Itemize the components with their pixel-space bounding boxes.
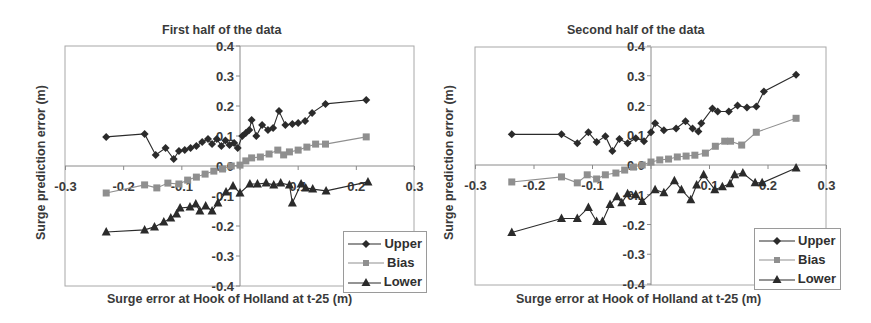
y-tick-label: -0.4	[623, 277, 646, 292]
diamond-marker	[697, 119, 705, 127]
y-axis-label: Surge prediction error (m)	[442, 90, 456, 240]
y-tick-label: 0.2	[627, 99, 645, 114]
square-marker	[508, 178, 515, 185]
legend-item-bias: Bias	[759, 250, 836, 269]
chart-title: Second half of the data	[567, 23, 705, 37]
legend-item-upper: Upper	[759, 231, 836, 250]
square-marker	[712, 143, 719, 150]
triangle-marker	[670, 176, 679, 185]
triangle-marker	[792, 163, 801, 172]
triangle-marker-icon	[759, 274, 795, 284]
square-marker	[648, 159, 655, 166]
x-tick-label: -0.3	[464, 178, 486, 193]
x-tick-label: 0.3	[817, 178, 835, 193]
chart-panel-second-half: 0.40.30.20.10.0-0.1-0.2-0.3-0.4-0.3-0.2-…	[0, 0, 871, 323]
diamond-marker	[760, 88, 768, 96]
diamond-marker	[601, 132, 609, 140]
square-marker	[593, 175, 600, 182]
square-marker	[574, 179, 581, 186]
legend-item-lower: Lower	[759, 269, 836, 288]
x-tick-label: -0.1	[581, 178, 603, 193]
x-axis-label: Surge error at Hook of Holland at t-25 (…	[516, 292, 761, 306]
square-marker	[793, 115, 800, 122]
square-marker	[683, 153, 690, 160]
diamond-marker	[734, 102, 742, 110]
legend-label: Upper	[798, 233, 836, 248]
square-marker	[630, 164, 637, 171]
square-marker	[639, 162, 646, 169]
diamond-marker	[608, 147, 616, 155]
triangle-marker	[598, 217, 607, 226]
y-tick-label: -0.2	[623, 218, 645, 233]
diamond-marker	[508, 130, 516, 138]
triangle-marker	[557, 214, 566, 223]
square-marker	[584, 171, 591, 178]
diamond-marker	[752, 102, 760, 110]
diamond-marker	[743, 104, 751, 112]
series-line-bias	[512, 118, 796, 183]
y-tick-label: 0.3	[627, 69, 645, 84]
triangle-marker	[738, 168, 747, 177]
triangle-marker	[613, 192, 622, 201]
square-marker	[753, 129, 760, 136]
square-marker	[738, 142, 745, 149]
square-marker	[558, 173, 565, 180]
square-marker	[612, 170, 619, 177]
diamond-marker	[792, 71, 800, 79]
legend-label: Lower	[798, 271, 836, 286]
plot-svg: 0.40.30.20.10.0-0.1-0.2-0.3-0.4-0.3-0.2-…	[0, 0, 871, 323]
diamond-marker	[557, 130, 565, 138]
triangle-marker	[584, 203, 593, 212]
square-marker	[665, 156, 672, 163]
square-marker-icon	[759, 255, 795, 265]
square-marker	[656, 156, 663, 163]
y-tick-label: 0.4	[627, 39, 646, 54]
square-marker	[674, 153, 681, 160]
diamond-marker	[615, 135, 623, 143]
square-marker	[691, 152, 698, 159]
diamond-marker-icon	[759, 236, 795, 246]
square-marker	[727, 138, 734, 145]
square-marker	[702, 150, 709, 157]
square-marker	[602, 171, 609, 178]
triangle-marker	[699, 170, 708, 179]
square-marker	[621, 167, 628, 174]
triangle-marker	[651, 185, 660, 194]
series-line-upper	[512, 75, 796, 151]
y-tick-label: -0.3	[623, 247, 645, 262]
legend: Upper Bias Lower	[754, 228, 841, 290]
triangle-marker	[725, 179, 734, 188]
legend-label: Bias	[798, 252, 825, 267]
diamond-marker	[725, 107, 733, 115]
